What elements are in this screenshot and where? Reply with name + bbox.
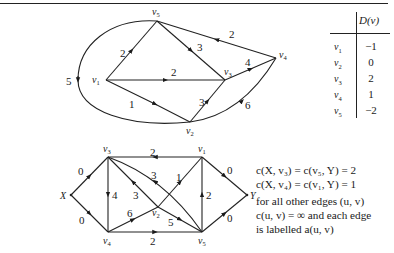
svg-text:3: 3 (151, 169, 157, 181)
demand-value: 2 (358, 72, 384, 84)
svg-text:2: 2 (150, 235, 156, 247)
edge-v4-v5 (157, 21, 276, 58)
note-line-4: c(u, v) = ∞ and each edge (256, 208, 394, 222)
upper-node-labels: v5 v1 v3 v4 v2 (92, 6, 287, 137)
svg-text:v5: v5 (198, 235, 206, 247)
svg-text:3: 3 (133, 189, 139, 201)
edge-v2-v5 (158, 207, 202, 232)
lower-graph (71, 157, 247, 232)
note-line-2: c(X, v₄) = c(v₁, Y) = 1 (256, 177, 394, 191)
table-row: v4 1 (330, 88, 392, 104)
table-header: D(v) (359, 14, 379, 26)
svg-text:4: 4 (245, 56, 251, 68)
edge-v4-v2 (108, 207, 158, 232)
edge-v2-v4 (190, 58, 276, 122)
table-header-rule (330, 33, 390, 34)
lower-node-dots (70, 194, 249, 197)
table-row: v5 −2 (330, 104, 392, 120)
svg-text:X: X (59, 190, 67, 201)
svg-text:2: 2 (229, 28, 235, 40)
edge-v2-v3 (190, 80, 225, 122)
demand-value: 1 (358, 88, 384, 100)
svg-text:1: 1 (176, 171, 182, 183)
svg-text:3: 3 (197, 41, 203, 53)
svg-text:1: 1 (129, 98, 135, 110)
svg-text:v4: v4 (279, 49, 287, 61)
demand-value: −1 (358, 40, 384, 52)
svg-text:0: 0 (79, 214, 85, 226)
svg-text:v1: v1 (198, 143, 206, 155)
edge-v5-v3 (157, 21, 225, 80)
svg-text:v5: v5 (152, 6, 160, 18)
svg-text:0: 0 (227, 212, 233, 224)
svg-text:v4: v4 (103, 235, 111, 247)
svg-text:0: 0 (227, 164, 233, 176)
svg-text:2: 2 (120, 47, 126, 59)
svg-text:0: 0 (78, 165, 84, 177)
svg-text:v3: v3 (224, 66, 232, 78)
vertex-label: v1 (334, 41, 342, 54)
table-row: v3 2 (330, 72, 392, 88)
svg-text:3: 3 (199, 96, 205, 108)
table-row: v2 0 (330, 56, 392, 72)
svg-text:v1: v1 (92, 74, 100, 86)
note-line-5: is labelled a(u, v) (256, 222, 394, 236)
svg-text:6: 6 (245, 99, 251, 111)
svg-text:v2: v2 (186, 125, 194, 137)
svg-text:5: 5 (168, 216, 174, 228)
demand-value: 0 (358, 56, 384, 68)
demand-value: −2 (358, 104, 384, 116)
svg-text:4: 4 (112, 189, 118, 201)
note-line-3: for all other edges (u, v) (256, 194, 394, 208)
vertex-label: v2 (334, 57, 342, 70)
svg-text:2: 2 (171, 66, 177, 78)
svg-text:6: 6 (127, 207, 133, 219)
vertex-label: v5 (334, 105, 342, 118)
edge-X-v4 (71, 195, 108, 232)
note-line-1: c(X, v₃) = c(v₅, Y) = 2 (256, 163, 394, 177)
table-row: v1 −1 (330, 40, 392, 56)
svg-text:2: 2 (150, 146, 156, 158)
capacity-notes: c(X, v₃) = c(v₅, Y) = 2 c(X, v₄) = c(v₁,… (256, 163, 394, 236)
vertex-label: v4 (334, 89, 342, 102)
svg-text:5: 5 (66, 75, 72, 87)
svg-text:v3: v3 (103, 143, 111, 155)
edge-v1-v2 (106, 80, 190, 122)
svg-text:2: 2 (206, 189, 212, 201)
lower-node-labels: v3 v1 X Y v4 v5 v2 (59, 143, 257, 247)
edge-v1-v5 (106, 21, 157, 80)
vertex-label: v3 (334, 73, 342, 86)
edge-X-v3 (71, 157, 108, 195)
svg-text:v2: v2 (152, 207, 160, 219)
